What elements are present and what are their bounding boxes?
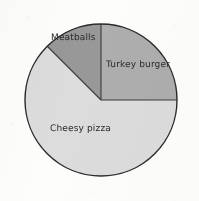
pie-label-meatballs: Meatballs: [51, 34, 96, 43]
pie-chart: Meatballs Turkey burger Cheesy pizza: [0, 0, 199, 201]
pie-label-turkey-burger: Turkey burger: [106, 61, 170, 70]
pie-chart-graphic: [0, 0, 199, 201]
pie-label-cheesy-pizza: Cheesy pizza: [50, 125, 111, 134]
